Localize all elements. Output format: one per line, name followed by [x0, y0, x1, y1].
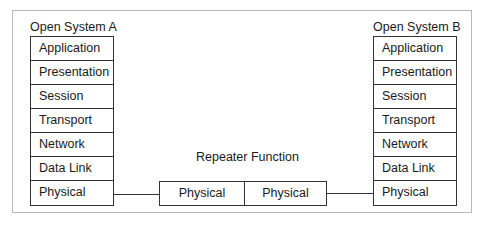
- system-a-layer-transport: Transport: [31, 109, 113, 133]
- system-b-layer-session: Session: [374, 85, 456, 109]
- system-b-layer-physical: Physical: [374, 181, 456, 205]
- system-a-stack: Application Presentation Session Transpo…: [30, 36, 114, 206]
- system-a-layer-physical: Physical: [31, 181, 113, 205]
- system-b-layer-presentation: Presentation: [374, 61, 456, 85]
- system-b-layer-application: Application: [374, 37, 456, 61]
- system-a-layer-session: Session: [31, 85, 113, 109]
- repeater-title: Repeater Function: [196, 150, 299, 164]
- link-repeater-to-b: [327, 193, 373, 194]
- system-b-layer-data-link: Data Link: [374, 157, 456, 181]
- system-a-layer-network: Network: [31, 133, 113, 157]
- system-b-stack: Application Presentation Session Transpo…: [373, 36, 457, 206]
- system-a-title: Open System A: [30, 20, 117, 34]
- system-b-layer-transport: Transport: [374, 109, 456, 133]
- system-b-title: Open System B: [373, 20, 461, 34]
- link-a-to-repeater: [114, 194, 159, 195]
- system-a-layer-presentation: Presentation: [31, 61, 113, 85]
- system-b-layer-network: Network: [374, 133, 456, 157]
- repeater-physical-right: Physical: [244, 181, 327, 206]
- system-a-layer-data-link: Data Link: [31, 157, 113, 181]
- system-a-layer-application: Application: [31, 37, 113, 61]
- repeater-physical-left: Physical: [159, 181, 245, 206]
